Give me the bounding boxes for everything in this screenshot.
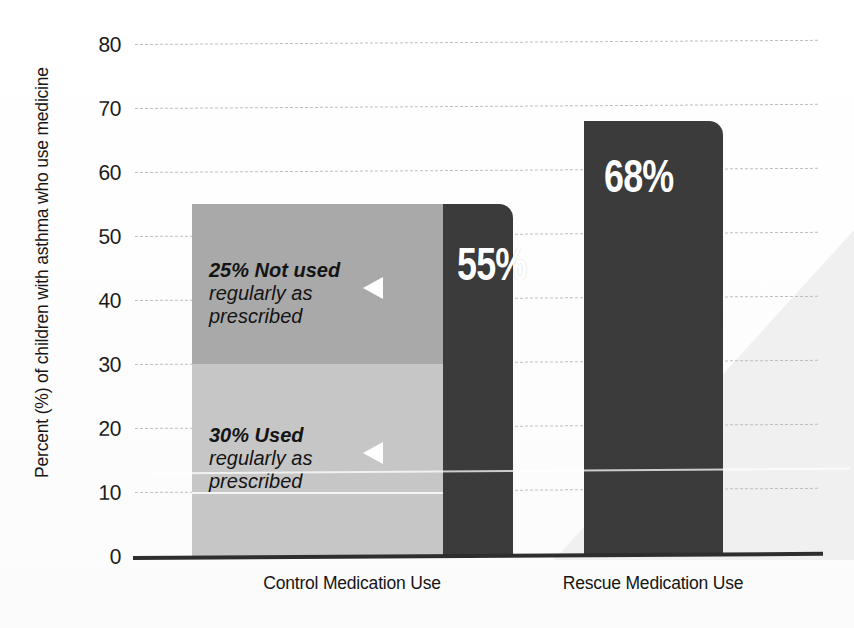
y-tick-label-10: 10 [98,481,121,505]
callout-used-line3: prescribed [209,470,312,493]
y-tick-label-20: 20 [98,417,121,441]
callout-not-used-lead: 25% Not used [209,259,340,282]
x-axis-label-control: Control Medication Use [263,573,441,594]
x-axis-label-rescue: Rescue Medication Use [563,573,744,594]
callout-used-lead: 30% Used [209,424,312,447]
bar-chart-figure: Percent (%) of children with asthma who … [0,0,854,628]
gridline-80: 80 [135,40,818,45]
callout-pointer-not-used-icon [363,277,383,299]
callout-used-line2: regularly as [209,447,312,470]
y-tick-label-30: 30 [98,353,121,377]
y-axis-title: Percent (%) of children with asthma who … [32,13,53,533]
callout-not-used-regularly: 25% Not used regularly as prescribed [209,259,340,329]
bar-value-label-control: 55% [457,237,526,291]
callout-not-used-line2: regularly as [209,282,340,305]
y-tick-label-60: 60 [98,161,121,185]
y-tick-label-50: 50 [98,225,121,249]
plot-area: 80 70 60 50 40 30 20 10 0 [135,44,818,556]
bar-value-label-rescue: 68% [604,149,673,203]
callout-not-used-line3: prescribed [209,305,340,328]
y-tick-label-40: 40 [98,289,121,313]
y-tick-label-80: 80 [98,33,121,57]
gridline-70: 70 [135,104,818,109]
y-tick-label-0: 0 [110,545,121,569]
callout-pointer-used-icon [363,442,383,464]
y-tick-label-70: 70 [98,97,121,121]
callout-used-regularly: 30% Used regularly as prescribed [209,424,312,494]
